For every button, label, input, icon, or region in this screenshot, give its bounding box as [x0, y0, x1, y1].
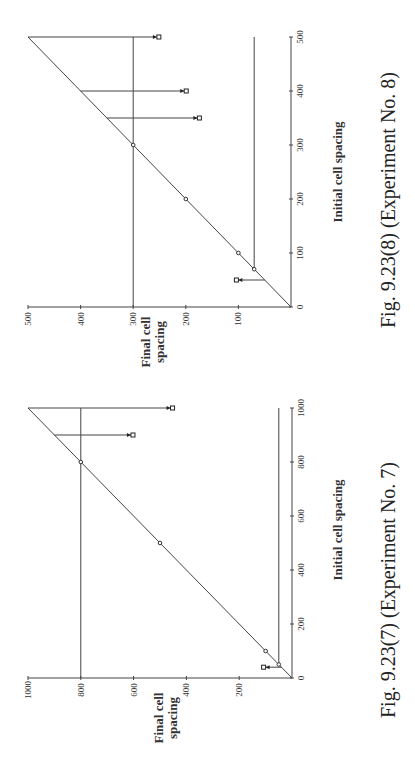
svg-text:200: 200 [181, 312, 191, 326]
data-point-final [157, 35, 161, 39]
svg-text:100: 100 [295, 246, 305, 260]
data-point [184, 197, 188, 201]
arrowhead-icon [167, 406, 171, 410]
svg-text:300: 300 [295, 138, 305, 152]
data-point-final [197, 116, 201, 120]
svg-text:400: 400 [295, 84, 305, 98]
svg-text:400: 400 [296, 563, 306, 577]
y-tick-label: 800 [76, 683, 86, 697]
x-tick-label: 200 [295, 192, 305, 206]
x-tick-label: 0 [295, 304, 305, 309]
svg-text:200: 200 [296, 617, 306, 631]
chart-experiment-8: 0100200300400500100200300400500 [23, 30, 305, 326]
arrowhead-icon [238, 278, 242, 282]
exp8-caption: Fig. 9.23(8) (Experiment No. 8) [377, 72, 400, 328]
svg-text:1000: 1000 [23, 681, 33, 700]
y-tick-label: 300 [128, 312, 138, 326]
data-point [252, 267, 256, 271]
y-tick-label: 600 [129, 683, 139, 697]
svg-text:0: 0 [295, 304, 305, 309]
reference-line-y-equals-x [28, 37, 291, 307]
data-point [237, 251, 241, 255]
x-tick-label: 0 [296, 675, 306, 680]
y-axis-label-line2: spacing [152, 321, 167, 363]
x-axis-label: Initial cell spacing [330, 479, 345, 581]
y-tick-label: 500 [23, 312, 33, 326]
y-tick-label: 100 [233, 312, 243, 326]
data-point [131, 143, 135, 147]
y-tick-label: 200 [234, 683, 244, 697]
exp8-x-axis-title: Initial cell spacing [330, 121, 345, 223]
chart-experiment-7: 020040060080010002004006008001000 [23, 399, 306, 700]
data-point-final [171, 406, 175, 410]
y-tick-label: 1000 [23, 681, 33, 700]
data-point [158, 541, 162, 545]
x-tick-label: 200 [296, 617, 306, 631]
y-axis-label-line1: Final cell [138, 316, 153, 367]
svg-text:500: 500 [23, 312, 33, 326]
exp7-caption: Fig. 9.23(7) (Experiment No. 7) [377, 462, 400, 718]
data-point-final [184, 89, 188, 93]
svg-text:800: 800 [296, 455, 306, 469]
exp8-y-axis-title: Final cell spacing [138, 316, 167, 367]
svg-text:200: 200 [234, 683, 244, 697]
rotated-figure-page: 0100200300400500100200300400500 02004006… [0, 0, 415, 776]
svg-text:600: 600 [129, 683, 139, 697]
x-axis-label: Initial cell spacing [330, 121, 345, 223]
x-tick-label: 400 [295, 84, 305, 98]
svg-text:800: 800 [76, 683, 86, 697]
svg-text:400: 400 [76, 312, 86, 326]
arrowhead-icon [193, 116, 197, 120]
arrowhead-icon [180, 89, 184, 93]
data-point-final [131, 433, 135, 437]
svg-text:1000: 1000 [296, 399, 306, 418]
x-tick-label: 300 [295, 138, 305, 152]
svg-text:200: 200 [295, 192, 305, 206]
arrowhead-icon [266, 665, 270, 669]
x-tick-label: 800 [296, 455, 306, 469]
arrowhead-icon [127, 433, 131, 437]
svg-text:0: 0 [296, 675, 306, 680]
x-tick-label: 100 [295, 246, 305, 260]
exp7-y-axis-title: Final cell spacing [151, 692, 180, 743]
figure-caption: Fig. 9.23(8) (Experiment No. 8) [377, 72, 400, 328]
figure-caption: Fig. 9.23(7) (Experiment No. 7) [377, 462, 400, 718]
data-point-final [234, 278, 238, 282]
y-axis-label-line1: Final cell [151, 692, 166, 743]
data-point [277, 663, 281, 667]
svg-text:600: 600 [296, 509, 306, 523]
arrowhead-icon [153, 35, 157, 39]
data-point [79, 460, 83, 464]
figure-canvas: 0100200300400500100200300400500 02004006… [0, 0, 415, 776]
data-point [264, 649, 268, 653]
x-tick-label: 1000 [296, 399, 306, 418]
x-tick-label: 400 [296, 563, 306, 577]
y-axis-label-line2: spacing [165, 697, 180, 739]
svg-text:400: 400 [181, 683, 191, 697]
y-tick-label: 200 [181, 312, 191, 326]
svg-text:500: 500 [295, 30, 305, 44]
x-tick-label: 500 [295, 30, 305, 44]
y-tick-label: 400 [76, 312, 86, 326]
exp7-x-axis-title: Initial cell spacing [330, 479, 345, 581]
svg-text:300: 300 [128, 312, 138, 326]
y-tick-label: 400 [181, 683, 191, 697]
x-tick-label: 600 [296, 509, 306, 523]
data-point-final [262, 665, 266, 669]
svg-text:100: 100 [233, 312, 243, 326]
